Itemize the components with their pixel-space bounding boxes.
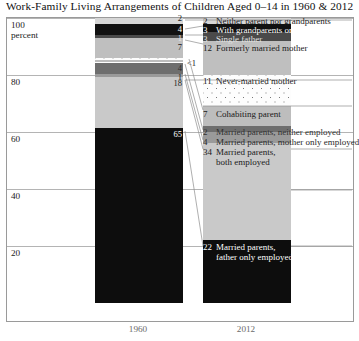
callout-label: Married parents, mother only employed: [216, 137, 359, 147]
seg-1960-married-both: [95, 77, 183, 128]
callout-married-father-only-line2: father only employed: [203, 252, 293, 262]
seg-1960-grandparents-only: [95, 24, 183, 35]
callout-value: 4: [203, 137, 216, 147]
value-label-1960-married-father-only: 65: [173, 130, 182, 139]
seg-1960-married-neither: [95, 63, 183, 74]
ytick-80: 80: [11, 77, 20, 87]
chart-title: Work-Family Living Arrangements of Child…: [6, 0, 356, 12]
callout-value: 12: [203, 43, 216, 53]
callout-value: 11: [203, 76, 216, 86]
y-axis-unit-label: percent: [11, 30, 38, 40]
callout-value: 7: [203, 109, 216, 119]
callout-married-neither: 2Married parents, neither employed: [203, 127, 340, 137]
value-label-1960-formerly-married: 7: [178, 43, 182, 52]
callout-label: father only employed: [216, 252, 293, 262]
callout-formerly-married: 12Formerly married mother: [203, 43, 307, 53]
callout-value: 22: [203, 242, 216, 252]
callout-label: Formerly married mother: [216, 43, 307, 53]
callout-label: Cohabiting parent: [216, 109, 281, 119]
seg-1960-married-father-only: [95, 128, 183, 303]
callout-label: Married parents,: [216, 242, 275, 252]
callout-married-mother-only: 4Married parents, mother only employed: [203, 137, 359, 147]
callout-value: 2: [203, 127, 216, 137]
callout-value: 34: [203, 147, 216, 157]
value-label-1960-neither-parent: 2: [178, 14, 182, 23]
chart-container: Work-Family Living Arrangements of Child…: [0, 0, 359, 341]
callout-cohabiting: 7Cohabiting parent: [203, 109, 281, 119]
callout-label: Never-married mother: [216, 76, 297, 86]
xaxis-label-2012: 2012: [202, 324, 290, 334]
value-label-1960-never-married: <1: [187, 59, 196, 68]
xaxis-label-1960: 1960: [94, 324, 182, 334]
ytick-100-value: 100: [11, 20, 25, 30]
ytick-60: 60: [11, 134, 20, 144]
callout-married-both-line2: both employed: [203, 157, 270, 167]
ytick-40: 40: [11, 191, 20, 201]
callout-married-father-only: 22Married parents,: [203, 242, 275, 252]
plot-area: 100 percent 80 60 40 20 2 4 1 7 <1 4: [6, 17, 354, 322]
callout-never-married: 11Never-married mother: [203, 76, 297, 86]
callout-label: Married parents, neither employed: [216, 127, 340, 137]
callout-label: both employed: [216, 157, 270, 167]
ytick-20: 20: [11, 248, 20, 258]
callout-label: Married parents,: [216, 147, 275, 157]
bar-1960: 2 4 1 7 <1 4 1 18 65: [95, 18, 183, 303]
callout-married-both: 34Married parents,: [203, 147, 275, 157]
ytick-100: 100 percent: [11, 20, 38, 40]
value-label-1960-married-both: 18: [173, 79, 182, 88]
seg-1960-formerly-married: [95, 38, 183, 58]
